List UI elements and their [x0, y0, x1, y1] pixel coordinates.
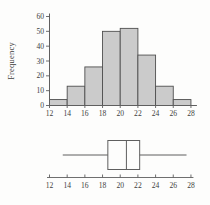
boxplot-tick-label: 26	[169, 181, 177, 190]
x-tick-label: 28	[187, 109, 195, 118]
y-tick-label: 50	[36, 27, 44, 36]
boxplot-box	[108, 141, 140, 170]
boxplot-tick-label: 28	[187, 181, 195, 190]
y-tick-label: 60	[36, 12, 44, 21]
boxplot-tick-label: 18	[99, 181, 107, 190]
boxplot-tick-label: 22	[134, 181, 142, 190]
y-tick-label: 40	[36, 42, 44, 51]
histogram-bar	[103, 31, 121, 105]
statistics-figure: 0102030405060121416182022242628121416182…	[0, 0, 210, 205]
histogram-and-boxplot-svg: 0102030405060121416182022242628121416182…	[0, 0, 210, 205]
x-tick-label: 22	[134, 109, 142, 118]
histogram-bar	[138, 55, 156, 105]
boxplot-tick-label: 16	[81, 181, 89, 190]
histogram-bar	[85, 67, 103, 106]
x-tick-label: 24	[152, 109, 160, 118]
y-tick-label: 30	[36, 57, 44, 66]
x-tick-label: 16	[81, 109, 89, 118]
x-tick-label: 20	[116, 109, 124, 118]
histogram-bar	[120, 28, 138, 105]
boxplot-tick-label: 20	[116, 181, 124, 190]
histogram-bar	[67, 86, 85, 105]
x-tick-label: 14	[63, 109, 71, 118]
boxplot-tick-label: 12	[46, 181, 54, 190]
histogram-bar	[156, 86, 174, 105]
boxplot-tick-label: 24	[152, 181, 160, 190]
histogram-bar	[50, 100, 68, 106]
x-tick-label: 18	[99, 109, 107, 118]
boxplot-tick-label: 14	[63, 181, 71, 190]
x-tick-label: 26	[169, 109, 177, 118]
y-axis-title: Frequency	[6, 42, 16, 80]
histogram-bar	[173, 100, 191, 106]
y-tick-label: 20	[36, 71, 44, 80]
x-tick-label: 12	[46, 109, 54, 118]
y-tick-label: 0	[40, 101, 44, 110]
y-tick-label: 10	[36, 86, 44, 95]
